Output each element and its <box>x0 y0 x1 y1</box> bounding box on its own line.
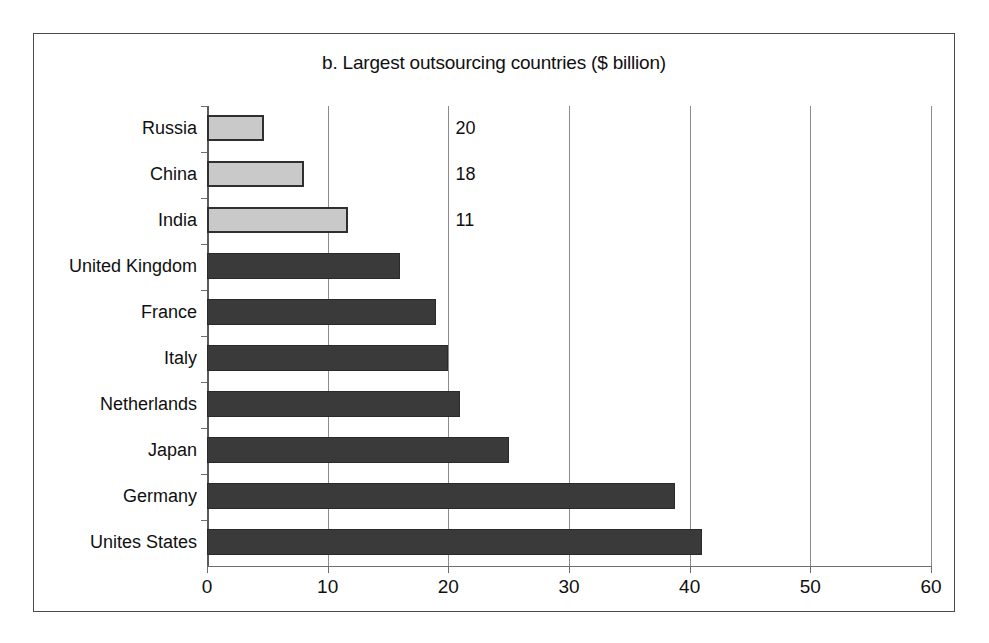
x-axis-tick-label: 60 <box>920 576 941 598</box>
x-axis-tick <box>810 566 811 573</box>
bar <box>207 529 702 555</box>
x-axis-tick <box>207 566 208 573</box>
x-axis-tick-label: 40 <box>679 576 700 598</box>
y-axis-tick <box>201 198 207 199</box>
bar <box>207 345 448 371</box>
category-label: China <box>150 161 197 187</box>
x-axis-tick-label: 30 <box>558 576 579 598</box>
gridline-60 <box>931 106 932 566</box>
category-label: India <box>158 207 197 233</box>
bar-row: Italy <box>207 336 931 382</box>
bar <box>207 253 400 279</box>
x-axis-tick-label: 50 <box>800 576 821 598</box>
bar <box>207 437 509 463</box>
y-axis-tick <box>201 428 207 429</box>
bar <box>207 299 436 325</box>
bar-row: Unites States <box>207 520 931 566</box>
data-label: 20 <box>456 115 476 141</box>
y-axis-tick <box>201 290 207 291</box>
plot-area: RussiaChinaIndiaUnited KingdomFranceItal… <box>207 106 931 566</box>
y-axis-tick <box>201 152 207 153</box>
bar-row: China <box>207 152 931 198</box>
x-axis-tick <box>569 566 570 573</box>
bar-row: United Kingdom <box>207 244 931 290</box>
y-axis-tick <box>201 474 207 475</box>
bar-row: Netherlands <box>207 382 931 428</box>
y-axis-tick <box>201 106 207 107</box>
chart-figure-frame: b. Largest outsourcing countries ($ bill… <box>33 33 955 612</box>
x-axis-tick-label: 0 <box>202 576 213 598</box>
bar <box>207 391 460 417</box>
category-label: Japan <box>148 437 197 463</box>
bar-row: Russia <box>207 106 931 152</box>
bar-row: Germany <box>207 474 931 520</box>
bar-row: France <box>207 290 931 336</box>
category-label: Russia <box>142 115 197 141</box>
y-axis-tick <box>201 382 207 383</box>
category-label: France <box>141 299 197 325</box>
bar-row: India <box>207 198 931 244</box>
bar <box>207 115 264 141</box>
data-label: 18 <box>456 161 476 187</box>
y-axis-tick <box>201 244 207 245</box>
x-axis-tick-label: 20 <box>438 576 459 598</box>
bar <box>207 483 675 509</box>
x-axis-tick <box>690 566 691 573</box>
category-label: Germany <box>123 483 197 509</box>
bar <box>207 161 304 187</box>
x-axis-tick <box>448 566 449 573</box>
bar <box>207 207 348 233</box>
category-label: United Kingdom <box>69 253 197 279</box>
x-axis-tick <box>931 566 932 573</box>
category-label: Unites States <box>90 529 197 555</box>
category-label: Netherlands <box>100 391 197 417</box>
y-axis-tick <box>201 520 207 521</box>
y-axis-tick <box>201 336 207 337</box>
data-label: 11 <box>456 207 475 233</box>
chart-title: b. Largest outsourcing countries ($ bill… <box>34 52 954 74</box>
x-axis-tick <box>328 566 329 573</box>
x-axis-tick-label: 10 <box>317 576 338 598</box>
bar-row: Japan <box>207 428 931 474</box>
category-label: Italy <box>164 345 197 371</box>
